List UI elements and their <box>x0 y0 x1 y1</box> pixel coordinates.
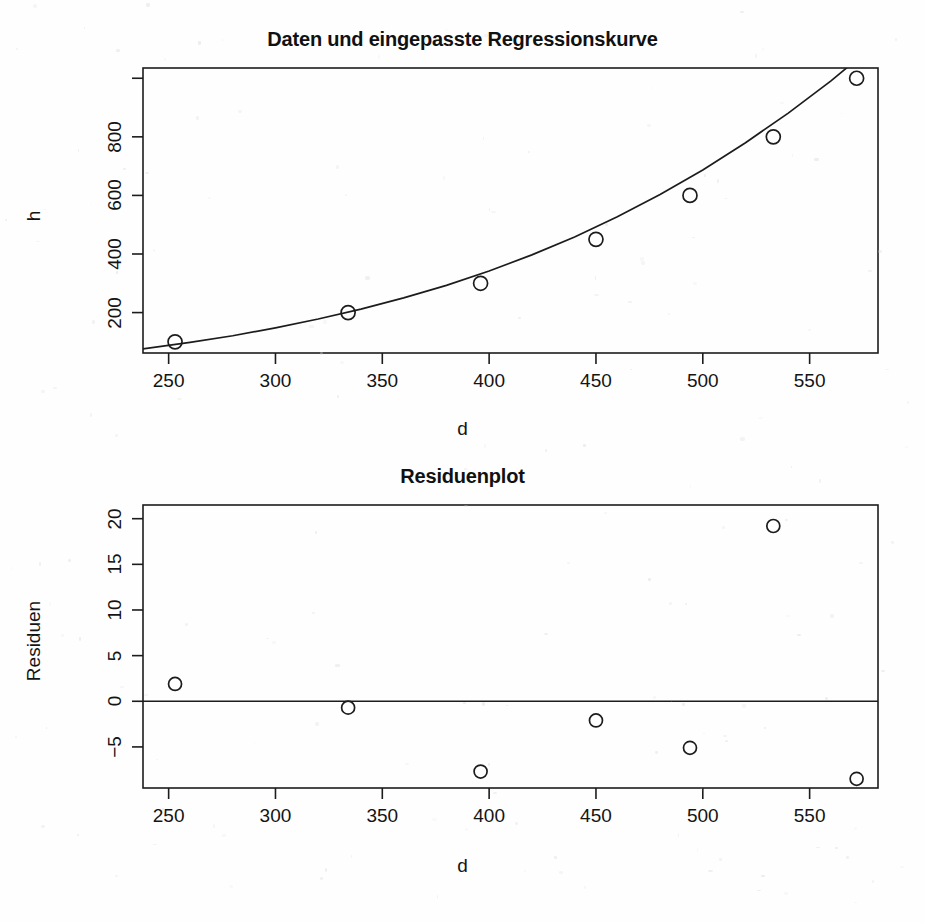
noise-speck <box>878 250 882 253</box>
noise-speck <box>685 603 686 605</box>
y-tick-label: 800 <box>104 107 126 167</box>
y-tick-label: 600 <box>104 165 126 225</box>
noise-speck <box>493 792 497 795</box>
noise-speck <box>488 763 489 766</box>
noise-speck <box>33 4 38 8</box>
regression-plot-canvas <box>0 0 925 465</box>
noise-speck <box>351 855 353 858</box>
regression-data-points <box>168 71 864 349</box>
noise-speck <box>164 58 166 61</box>
noise-speck <box>196 116 198 120</box>
noise-speck <box>484 34 489 37</box>
noise-speck <box>786 615 790 617</box>
residuals-y-axis-label: Residuen <box>23 581 45 701</box>
noise-speck <box>693 282 697 285</box>
noise-speck <box>463 702 466 703</box>
regression-plot-frame <box>143 68 878 353</box>
noise-speck <box>554 856 557 858</box>
noise-speck <box>762 48 764 51</box>
noise-speck <box>229 885 232 888</box>
data-point-marker <box>169 677 182 690</box>
noise-speck <box>464 505 468 507</box>
noise-speck <box>315 531 317 534</box>
noise-speck <box>722 526 725 529</box>
noise-speck <box>868 270 871 272</box>
noise-speck <box>309 325 314 328</box>
noise-speck <box>846 856 849 859</box>
noise-speck <box>784 892 789 894</box>
data-point-marker <box>589 232 603 246</box>
noise-speck <box>465 828 469 831</box>
noise-speck <box>594 294 599 296</box>
residuals-x-ticks <box>169 788 810 799</box>
residuals-y-ticks <box>132 519 143 747</box>
noise-speck <box>545 449 547 452</box>
noise-speck <box>49 602 51 606</box>
noise-speck <box>378 55 380 59</box>
noise-speck <box>740 11 744 13</box>
noise-speck <box>315 722 319 726</box>
noise-speck <box>785 519 788 521</box>
x-tick-label: 250 <box>139 805 199 827</box>
noise-speck <box>443 176 445 180</box>
x-tick-label: 550 <box>780 805 840 827</box>
x-tick-label: 350 <box>352 370 412 392</box>
noise-speck <box>405 763 408 764</box>
noise-speck <box>678 833 679 837</box>
noise-speck <box>115 434 117 437</box>
regression-y-ticks <box>132 78 143 312</box>
noise-speck <box>464 468 466 470</box>
noise-speck <box>697 848 698 851</box>
x-tick-label: 550 <box>780 370 840 392</box>
residuals-data-points <box>169 520 864 786</box>
noise-speck <box>323 320 326 324</box>
noise-speck <box>90 413 92 417</box>
noise-speck <box>719 858 721 861</box>
noise-speck <box>808 329 811 331</box>
noise-speck <box>859 562 863 564</box>
data-point-marker <box>766 130 780 144</box>
noise-speck <box>320 352 324 355</box>
noise-speck <box>115 875 118 877</box>
noise-speck <box>92 320 95 324</box>
regression-fitted-curve <box>143 49 869 349</box>
noise-speck <box>742 704 746 708</box>
noise-speck <box>484 444 487 448</box>
noise-speck <box>881 670 885 672</box>
noise-speck <box>162 808 163 812</box>
noise-speck <box>872 880 874 883</box>
noise-speck <box>755 54 757 58</box>
noise-speck <box>312 612 315 614</box>
y-tick-label: 20 <box>104 489 126 549</box>
noise-speck <box>116 49 120 51</box>
data-point-marker <box>474 765 487 778</box>
noise-speck <box>854 902 857 903</box>
noise-speck <box>819 479 821 483</box>
data-point-marker <box>168 335 182 349</box>
noise-speck <box>647 124 652 127</box>
noise-speck <box>16 48 18 49</box>
noise-speck <box>482 702 485 706</box>
noise-speck <box>515 822 518 826</box>
noise-speck <box>640 257 644 261</box>
noise-speck <box>655 751 658 755</box>
x-tick-label: 500 <box>673 370 733 392</box>
noise-speck <box>653 696 656 699</box>
x-tick-label: 500 <box>673 805 733 827</box>
noise-speck <box>559 871 563 874</box>
noise-speck <box>835 847 838 849</box>
noise-speck <box>61 634 64 636</box>
x-tick-label: 250 <box>139 370 199 392</box>
noise-speck <box>185 623 188 626</box>
data-point-marker <box>342 701 355 714</box>
noise-speck <box>682 703 685 706</box>
noise-speck <box>584 886 586 888</box>
data-point-marker <box>767 520 780 533</box>
noise-speck <box>692 237 694 238</box>
noise-speck <box>266 638 269 639</box>
data-point-marker <box>589 714 602 727</box>
x-tick-label: 400 <box>459 805 519 827</box>
noise-speck <box>432 818 436 821</box>
noise-speck <box>641 261 645 265</box>
noise-speck <box>41 825 45 828</box>
